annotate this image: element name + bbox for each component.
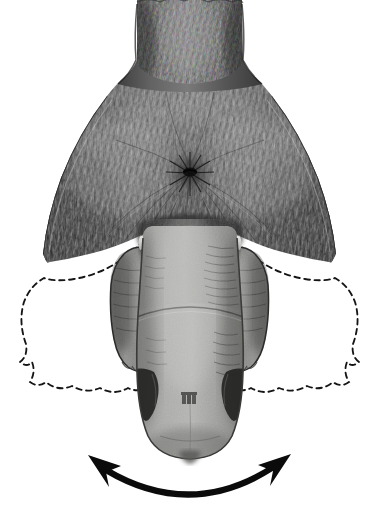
figure-root: Posterior view of the hindquarters showi… (0, 0, 379, 515)
hair-whorl (164, 147, 216, 199)
appendage-center-highlight (152, 208, 220, 392)
marking-median (181, 392, 197, 404)
anatomical-illustration-canvas (0, 0, 379, 515)
hair-whorl-center (183, 168, 197, 177)
neck (118, 0, 262, 95)
appendage-midline (190, 404, 191, 450)
